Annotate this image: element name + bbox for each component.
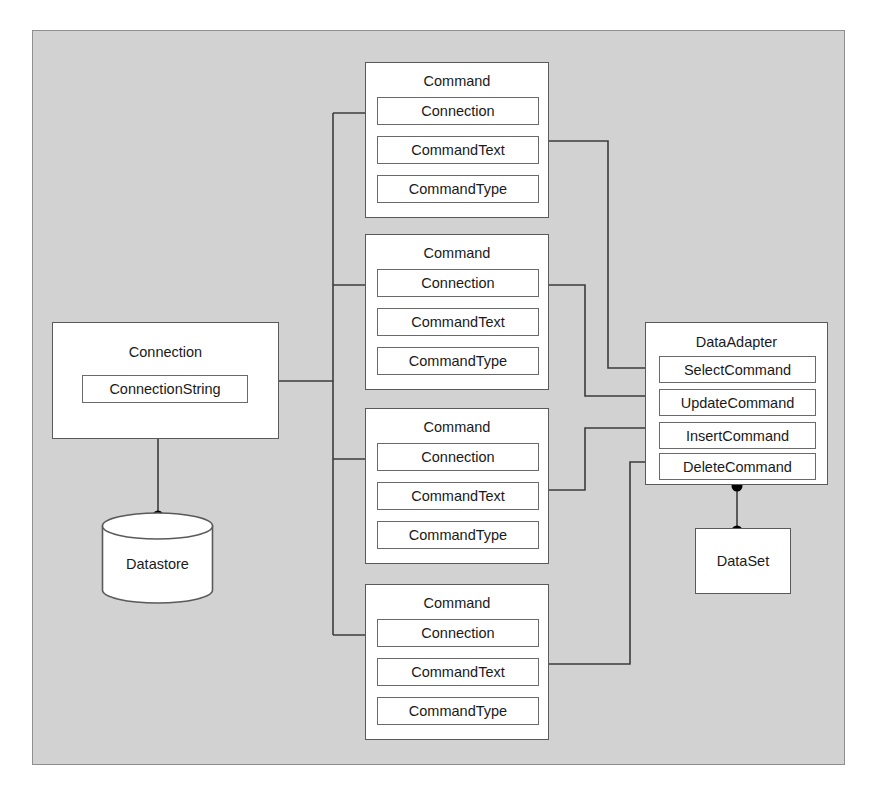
command-4-slot-commandtype[interactable]: CommandType: [377, 697, 539, 725]
class-box-connection[interactable]: Connection ConnectionString: [52, 322, 279, 439]
class-box-command-2[interactable]: Command Connection CommandText CommandTy…: [365, 234, 549, 390]
command-3-slot-commandtext[interactable]: CommandText: [377, 482, 539, 510]
dataadapter-slot-updatecommand[interactable]: UpdateCommand: [659, 389, 816, 416]
datastore-cylinder[interactable]: Datastore: [101, 512, 214, 604]
class-box-command-4[interactable]: Command Connection CommandText CommandTy…: [365, 584, 549, 740]
dataadapter-slot-deletecommand[interactable]: DeleteCommand: [659, 453, 816, 480]
dataadapter-slot-selectcommand[interactable]: SelectCommand: [659, 356, 816, 383]
class-box-dataset[interactable]: DataSet: [695, 528, 791, 594]
command-1-title: Command: [366, 74, 548, 89]
command-4-slot-commandtext[interactable]: CommandText: [377, 658, 539, 686]
class-box-command-1[interactable]: Command Connection CommandText CommandTy…: [365, 62, 549, 218]
dataadapter-slot-insertcommand[interactable]: InsertCommand: [659, 422, 816, 449]
command-2-slot-commandtype[interactable]: CommandType: [377, 347, 539, 375]
connection-slot-connectionstring[interactable]: ConnectionString: [82, 375, 248, 403]
class-box-dataadapter[interactable]: DataAdapter SelectCommand UpdateCommand …: [645, 322, 828, 485]
dataadapter-title: DataAdapter: [646, 335, 827, 350]
connection-title: Connection: [53, 345, 278, 360]
dataset-title: DataSet: [717, 554, 769, 569]
command-1-slot-commandtype[interactable]: CommandType: [377, 175, 539, 203]
command-4-title: Command: [366, 596, 548, 611]
datastore-label: Datastore: [101, 556, 214, 572]
command-3-slot-commandtype[interactable]: CommandType: [377, 521, 539, 549]
diagram-canvas: Connection ConnectionString Datastore Co…: [0, 0, 875, 798]
class-box-command-3[interactable]: Command Connection CommandText CommandTy…: [365, 408, 549, 564]
command-1-slot-connection[interactable]: Connection: [377, 97, 539, 125]
command-3-title: Command: [366, 420, 548, 435]
command-1-slot-commandtext[interactable]: CommandText: [377, 136, 539, 164]
command-2-slot-connection[interactable]: Connection: [377, 269, 539, 297]
command-3-slot-connection[interactable]: Connection: [377, 443, 539, 471]
command-2-title: Command: [366, 246, 548, 261]
command-2-slot-commandtext[interactable]: CommandText: [377, 308, 539, 336]
command-4-slot-connection[interactable]: Connection: [377, 619, 539, 647]
